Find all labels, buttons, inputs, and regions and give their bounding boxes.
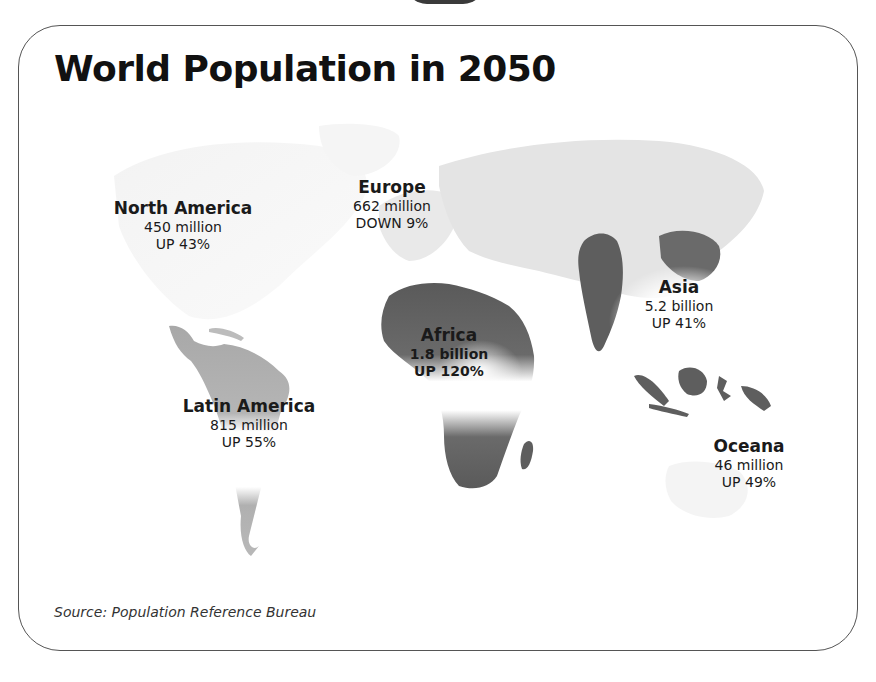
region-name: Asia [629, 277, 729, 298]
region-label-europe: Europe 662 million DOWN 9% [337, 177, 447, 232]
region-name: Oceana [699, 436, 799, 457]
region-change: DOWN 9% [337, 215, 447, 232]
region-name: Latin America [179, 396, 319, 417]
caribbean-shape [209, 328, 244, 341]
sulawesi-shape [717, 376, 731, 401]
region-change: UP 41% [629, 315, 729, 332]
region-population: 815 million [179, 417, 319, 434]
region-label-africa: Africa 1.8 billion UP 120% [394, 325, 504, 380]
region-label-latin-america: Latin America 815 million UP 55% [179, 396, 319, 451]
madagascar-shape [521, 441, 534, 469]
region-population: 1.8 billion [394, 346, 504, 363]
region-population: 46 million [699, 457, 799, 474]
source-caption: Source: Population Reference Bureau [54, 604, 316, 620]
region-change: UP 43% [103, 236, 263, 253]
region-name: Europe [337, 177, 447, 198]
region-population: 662 million [337, 198, 447, 215]
region-population: 5.2 billion [629, 298, 729, 315]
region-label-oceana: Oceana 46 million UP 49% [699, 436, 799, 491]
region-change: UP 55% [179, 434, 319, 451]
region-name: Africa [394, 325, 504, 346]
infographic-card: World Population in 2050 [18, 25, 858, 651]
java-shape [649, 404, 689, 417]
region-population: 450 million [103, 219, 263, 236]
region-label-north-america: North America 450 million UP 43% [103, 198, 263, 253]
decorative-shape [405, 0, 485, 4]
region-change: UP 49% [699, 474, 799, 491]
region-label-asia: Asia 5.2 billion UP 41% [629, 277, 729, 332]
southeast-asia-shape [634, 375, 669, 406]
region-name: North America [103, 198, 263, 219]
new-guinea-shape [741, 386, 771, 411]
region-change: UP 120% [394, 363, 504, 380]
